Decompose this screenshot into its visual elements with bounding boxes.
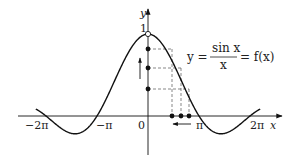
x-tick-neg-pi: −π <box>96 119 112 132</box>
y-axis-label: y <box>139 7 147 20</box>
formula-denominator: x <box>220 58 227 72</box>
formula: y = sin x x = f(x) <box>186 41 274 72</box>
x-tick-2pi: 2π <box>250 119 264 132</box>
sinc-graph: y 1 0 x −2π −π π 2π y = sin x x = f(x) <box>0 0 293 162</box>
formula-rhs: = f(x) <box>240 50 274 64</box>
origin-label: 0 <box>138 119 145 132</box>
y-tick-one: 1 <box>140 22 147 35</box>
x-axis-label: x <box>270 119 277 132</box>
formula-numerator: sin x <box>212 41 241 55</box>
x-tick-pi: π <box>196 119 203 132</box>
x-tick-neg-2pi: −2π <box>25 119 48 132</box>
x-axis-points <box>170 114 192 119</box>
formula-lhs: y = <box>186 50 208 64</box>
